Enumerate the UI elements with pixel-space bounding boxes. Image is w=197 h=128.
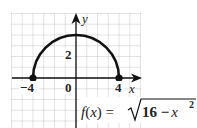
y-axis-label: y bbox=[80, 11, 88, 26]
x-axis-label: x bbox=[128, 81, 135, 96]
function-graph: y x 2 −4 0 4 f(x) = 16 −x 2 bbox=[0, 0, 197, 128]
x-tick-4: 4 bbox=[115, 80, 122, 95]
x-tick-0: 0 bbox=[65, 80, 72, 95]
formula-exponent: 2 bbox=[189, 99, 194, 110]
y-tick-2: 2 bbox=[65, 47, 72, 62]
formula-radicand: 16 −x bbox=[142, 104, 178, 120]
x-tick-neg4: −4 bbox=[20, 80, 34, 95]
function-formula: f(x) = 16 −x 2 bbox=[79, 97, 197, 123]
formula-lhs: f(x) = bbox=[81, 104, 114, 121]
